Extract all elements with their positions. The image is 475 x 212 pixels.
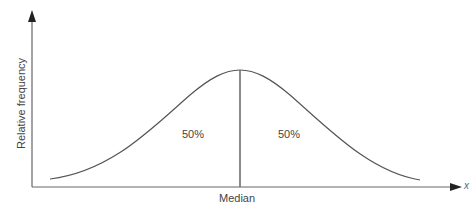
x-axis-arrow-icon	[450, 183, 462, 191]
y-axis-label: Relative frequency	[15, 59, 27, 149]
left-percent-label: 50%	[182, 128, 204, 140]
right-percent-label: 50%	[278, 128, 300, 140]
chart-canvas	[0, 0, 475, 212]
median-label: Median	[219, 192, 255, 204]
y-axis-arrow-icon	[28, 10, 36, 22]
bell-curve	[50, 70, 420, 180]
x-axis-label: x	[464, 180, 469, 191]
